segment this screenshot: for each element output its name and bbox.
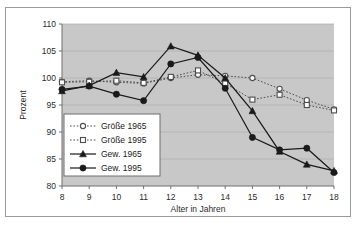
data-point-filled-circle <box>113 91 119 97</box>
legend-label: Gew. 1965 <box>101 149 142 159</box>
y-tick-label: 85 <box>47 154 57 164</box>
x-tick-label: 14 <box>220 192 230 202</box>
y-tick-label: 90 <box>47 127 57 137</box>
data-point-open-square <box>81 138 86 143</box>
x-tick-label: 17 <box>302 192 312 202</box>
data-point-open-square <box>250 97 255 102</box>
legend-label: Größe 1965 <box>101 121 147 131</box>
data-point-filled-circle <box>141 98 147 104</box>
data-point-open-square <box>141 80 146 85</box>
data-point-filled-circle <box>195 54 201 60</box>
y-axis-title: Prozent <box>18 90 28 120</box>
y-tick-label: 105 <box>42 46 56 56</box>
data-point-open-square <box>332 108 337 113</box>
data-point-open-square <box>114 78 119 83</box>
x-tick-label: 12 <box>166 192 176 202</box>
data-point-open-square <box>168 74 173 79</box>
data-point-open-square <box>60 80 65 85</box>
y-tick-label: 100 <box>42 73 56 83</box>
data-point-filled-circle <box>86 83 92 89</box>
data-point-filled-circle <box>222 85 228 91</box>
x-tick-label: 8 <box>60 192 65 202</box>
legend-label: Gew. 1995 <box>101 163 142 173</box>
y-axis-tick-labels: 80859095100105110 <box>42 19 56 191</box>
data-point-open-square <box>277 92 282 97</box>
x-tick-label: 16 <box>275 192 285 202</box>
x-tick-label: 18 <box>329 192 339 202</box>
data-point-open-square <box>196 68 201 73</box>
x-axis-title: Alter in Jahren <box>171 204 226 214</box>
x-axis-tick-labels: 89101112131415161718 <box>60 192 339 202</box>
data-point-filled-circle <box>277 147 283 153</box>
data-point-filled-circle <box>249 134 255 140</box>
y-tick-label: 110 <box>42 19 56 29</box>
data-point-open-circle <box>250 75 255 80</box>
y-tick-label: 80 <box>47 181 57 191</box>
x-tick-label: 9 <box>87 192 92 202</box>
chart-legend: Größe 1965Größe 1995Gew. 1965Gew. 1995 <box>64 114 160 176</box>
legend-label: Größe 1995 <box>101 135 147 145</box>
data-point-open-circle <box>277 86 282 91</box>
data-point-filled-circle <box>304 145 310 151</box>
data-point-open-circle <box>80 123 85 128</box>
data-point-filled-circle <box>80 165 86 171</box>
chart-container: 80859095100105110 89101112131415161718 P… <box>0 0 358 230</box>
x-tick-label: 13 <box>193 192 203 202</box>
chart-canvas: 80859095100105110 89101112131415161718 P… <box>0 0 358 230</box>
data-point-open-square <box>304 103 309 108</box>
x-tick-label: 10 <box>112 192 122 202</box>
x-tick-label: 11 <box>139 192 148 202</box>
y-tick-label: 95 <box>47 100 57 110</box>
data-point-filled-circle <box>168 61 174 67</box>
data-point-filled-circle <box>331 169 337 175</box>
x-tick-label: 15 <box>248 192 258 202</box>
data-point-filled-circle <box>59 86 65 92</box>
